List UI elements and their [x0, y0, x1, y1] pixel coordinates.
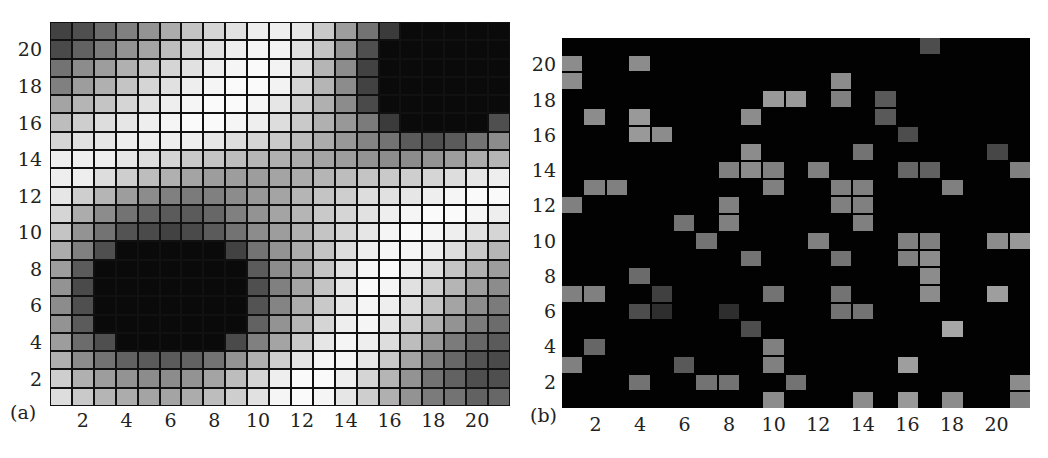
heatmap-cell: [942, 339, 962, 355]
heatmap-cell: [652, 233, 672, 249]
heatmap-cell: [336, 60, 356, 76]
heatmap-cell: [920, 180, 940, 196]
heatmap-cell: [226, 261, 246, 277]
heatmap-cell: [831, 321, 851, 337]
heatmap-cell: [292, 151, 312, 167]
x-tick-label: 8: [199, 410, 229, 430]
heatmap-cell: [652, 339, 672, 355]
heatmap-cell: [73, 23, 93, 39]
heatmap-cell: [314, 334, 334, 350]
heatmap-cell: [629, 109, 649, 125]
heatmap-cell: [652, 251, 672, 267]
heatmap-cell: [875, 268, 895, 284]
heatmap-cell: [358, 224, 378, 240]
heatmap-cell: [204, 334, 224, 350]
heatmap-cell: [270, 316, 290, 332]
heatmap-cell: [920, 109, 940, 125]
heatmap-cell: [51, 334, 71, 350]
heatmap-cell: [696, 162, 716, 178]
heatmap-cell: [607, 251, 627, 267]
heatmap-cell: [292, 133, 312, 149]
heatmap-cell: [1010, 268, 1030, 284]
heatmap-cell: [808, 56, 828, 72]
heatmap-cell: [467, 169, 487, 185]
heatmap-cell: [696, 197, 716, 213]
heatmap-cell: [423, 334, 443, 350]
heatmap-cell: [270, 151, 290, 167]
heatmap-cell: [674, 162, 694, 178]
heatmap-cell: [467, 352, 487, 368]
heatmap-cell: [965, 321, 985, 337]
heatmap-cell: [763, 197, 783, 213]
heatmap-cell: [965, 339, 985, 355]
heatmap-cell: [95, 297, 115, 313]
heatmap-cell: [719, 56, 739, 72]
heatmap-cell: [270, 297, 290, 313]
heatmap-cell: [182, 23, 202, 39]
heatmap-cell: [786, 268, 806, 284]
heatmap-cell: [763, 321, 783, 337]
heatmap-cell: [204, 60, 224, 76]
y-tick-label: 12: [520, 195, 556, 215]
heatmap-cell: [73, 78, 93, 94]
heatmap-cell: [920, 56, 940, 72]
heatmap-cell: [270, 169, 290, 185]
heatmap-cell: [808, 109, 828, 125]
x-tick-label: 20: [982, 414, 1012, 434]
heatmap-cell: [380, 23, 400, 39]
heatmap-cell: [248, 389, 268, 405]
heatmap-cell: [607, 339, 627, 355]
heatmap-cell: [161, 261, 181, 277]
heatmap-cell: [248, 96, 268, 112]
heatmap-cell: [161, 370, 181, 386]
heatmap-cell: [562, 304, 582, 320]
heatmap-cell: [1010, 339, 1030, 355]
heatmap-cell: [336, 316, 356, 332]
heatmap-cell: [652, 392, 672, 408]
heatmap-cell: [401, 133, 421, 149]
heatmap-cell: [808, 91, 828, 107]
heatmap-cell: [674, 268, 694, 284]
heatmap-cell: [674, 375, 694, 391]
heatmap-cell: [763, 215, 783, 231]
heatmap-cell: [741, 56, 761, 72]
heatmap-cell: [401, 389, 421, 405]
heatmap-cell: [73, 96, 93, 112]
heatmap-cell: [117, 41, 137, 57]
heatmap-cell: [786, 162, 806, 178]
heatmap-cell: [248, 334, 268, 350]
heatmap-cell: [161, 389, 181, 405]
heatmap-cell: [117, 169, 137, 185]
heatmap-cell: [445, 169, 465, 185]
x-tick-label: 2: [580, 414, 610, 434]
heatmap-cell: [204, 242, 224, 258]
heatmap-cell: [808, 392, 828, 408]
heatmap-cell: [808, 268, 828, 284]
heatmap-cell: [898, 73, 918, 89]
heatmap-cell: [467, 151, 487, 167]
heatmap-cell: [853, 233, 873, 249]
heatmap-cell: [607, 233, 627, 249]
heatmap-cell: [808, 251, 828, 267]
heatmap-cell: [831, 38, 851, 54]
heatmap-cell: [562, 56, 582, 72]
heatmap-cell: [898, 180, 918, 196]
heatmap-cell: [987, 91, 1007, 107]
heatmap-cell: [117, 188, 137, 204]
x-tick-label: 6: [670, 414, 700, 434]
heatmap-cell: [853, 286, 873, 302]
heatmap-cell: [161, 41, 181, 57]
heatmap-cell: [629, 357, 649, 373]
heatmap-cell: [920, 392, 940, 408]
heatmap-cell: [95, 78, 115, 94]
heatmap-cell: [920, 304, 940, 320]
x-tick-label: 12: [287, 410, 317, 430]
heatmap-cell: [182, 279, 202, 295]
heatmap-cell: [139, 316, 159, 332]
heatmap-cell: [467, 261, 487, 277]
heatmap-cell: [380, 242, 400, 258]
heatmap-cell: [226, 78, 246, 94]
heatmap-cell: [942, 268, 962, 284]
heatmap-cell: [898, 375, 918, 391]
heatmap-cell: [270, 352, 290, 368]
